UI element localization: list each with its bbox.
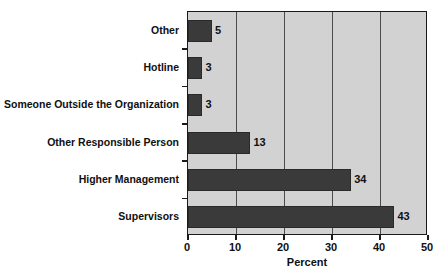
bar-chart: OtherHotlineSomeone Outside the Organiza…: [0, 0, 441, 276]
x-axis-tick: [379, 235, 381, 240]
category-label: Other: [151, 24, 179, 35]
category-label: Someone Outside the Organization: [4, 99, 179, 110]
category-label: Other Responsible Person: [47, 136, 179, 147]
x-axis-tick-label: 50: [421, 242, 433, 253]
x-axis-tick-label: 20: [277, 242, 289, 253]
gridline: [332, 12, 333, 234]
category-label: Higher Management: [79, 174, 179, 185]
x-axis-tick: [427, 235, 429, 240]
bar-value-label: 13: [253, 136, 265, 147]
bar: [188, 20, 212, 42]
x-axis-tick-label: 10: [229, 242, 241, 253]
gridline: [236, 12, 237, 234]
x-axis-title: Percent: [187, 257, 427, 268]
category-label: Supervisors: [118, 211, 179, 222]
bar-value-label: 3: [205, 62, 211, 73]
bar-value-label: 43: [397, 211, 409, 222]
x-axis-tick-label: 30: [325, 242, 337, 253]
plot-area: [187, 11, 427, 235]
gridline: [284, 12, 285, 234]
bar-value-label: 5: [215, 24, 221, 35]
bar: [188, 57, 202, 79]
bar-value-label: 34: [354, 174, 366, 185]
x-axis-tick: [187, 235, 189, 240]
x-axis-tick-label: 40: [373, 242, 385, 253]
gridline: [380, 12, 381, 234]
x-axis-tick: [283, 235, 285, 240]
category-axis-labels: OtherHotlineSomeone Outside the Organiza…: [0, 11, 183, 235]
bar: [188, 169, 351, 191]
category-label: Hotline: [143, 62, 179, 73]
bar-value-label: 3: [205, 99, 211, 110]
x-axis-tick-label: 0: [184, 242, 190, 253]
bar: [188, 132, 250, 154]
bar: [188, 94, 202, 116]
x-axis-tick: [235, 235, 237, 240]
bar: [188, 206, 394, 228]
x-axis-tick: [331, 235, 333, 240]
